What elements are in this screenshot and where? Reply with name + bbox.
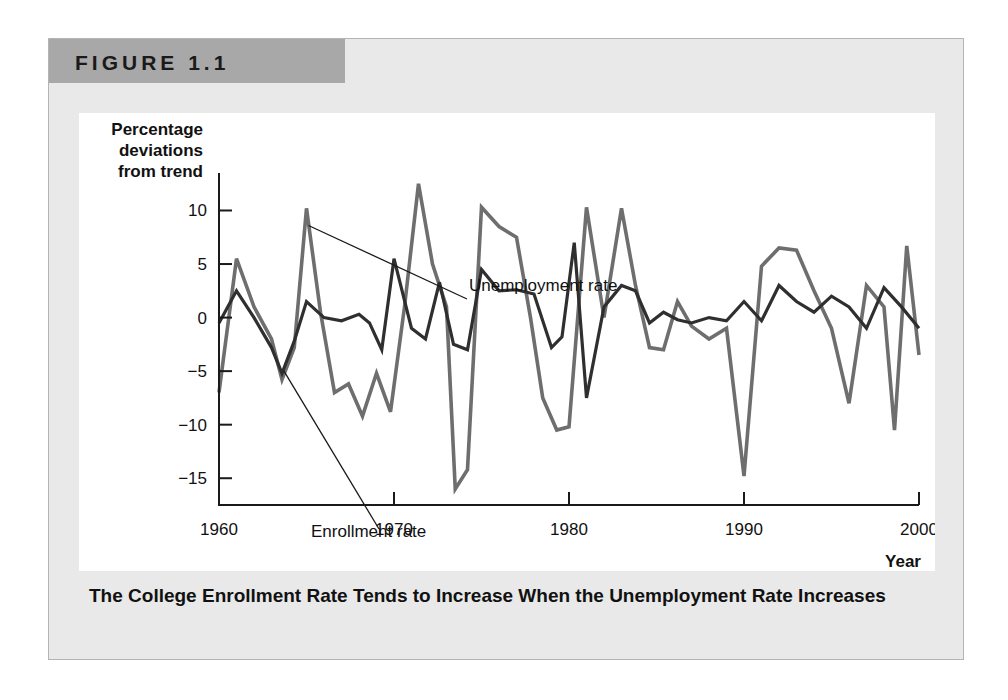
series-line-enrollment-rate bbox=[219, 243, 919, 398]
y-axis-title-line: from trend bbox=[118, 162, 203, 181]
figure-caption: The College Enrollment Rate Tends to Inc… bbox=[89, 583, 899, 609]
x-tick-label: 1960 bbox=[200, 520, 238, 539]
y-tick-label: 10 bbox=[188, 201, 207, 220]
plot-panel: 1050−5−10−1519601970198019902000Percenta… bbox=[79, 113, 935, 571]
y-axis-title-line: deviations bbox=[119, 141, 203, 160]
labels-group: 1050−5−10−1519601970198019902000Percenta… bbox=[111, 120, 935, 571]
x-axis-title: Year bbox=[885, 552, 921, 571]
figure-container: FIGURE 1.1 1050−5−10−1519601970198019902… bbox=[48, 38, 964, 660]
series-line-unemployment-rate bbox=[219, 184, 919, 489]
y-tick-label: −15 bbox=[178, 469, 207, 488]
x-tick-label: 2000 bbox=[900, 520, 935, 539]
y-tick-label: −5 bbox=[188, 362, 207, 381]
annotation-leader-line bbox=[309, 225, 468, 299]
y-tick-label: 0 bbox=[198, 309, 207, 328]
figure-header-band: FIGURE 1.1 bbox=[49, 39, 345, 83]
y-axis-title-line: Percentage bbox=[111, 120, 203, 139]
x-tick-label: 1980 bbox=[550, 520, 588, 539]
series-group bbox=[219, 184, 919, 489]
figure-number-label: FIGURE 1.1 bbox=[75, 51, 229, 75]
annotation-label: Unemployment rate bbox=[469, 276, 617, 295]
annotation-label: Enrollment rate bbox=[311, 522, 426, 541]
line-chart: 1050−5−10−1519601970198019902000Percenta… bbox=[79, 113, 935, 571]
caption-band: The College Enrollment Rate Tends to Inc… bbox=[79, 579, 935, 643]
y-tick-label: −10 bbox=[178, 416, 207, 435]
y-tick-label: 5 bbox=[198, 255, 207, 274]
x-tick-label: 1990 bbox=[725, 520, 763, 539]
